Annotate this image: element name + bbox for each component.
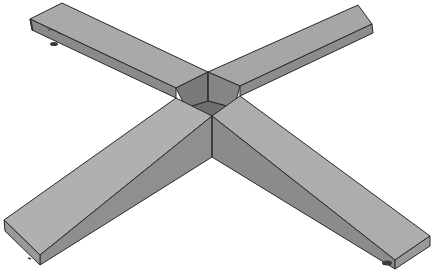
beam-bottom-left [4, 98, 212, 265]
beam-bottom-right [212, 96, 430, 269]
cross-beam-svg [0, 0, 431, 275]
foot-icon [50, 42, 58, 46]
beam-top-left [30, 3, 208, 98]
foot-icon [28, 258, 31, 259]
cross-beam-render [0, 0, 431, 275]
foot-icon [382, 261, 392, 266]
